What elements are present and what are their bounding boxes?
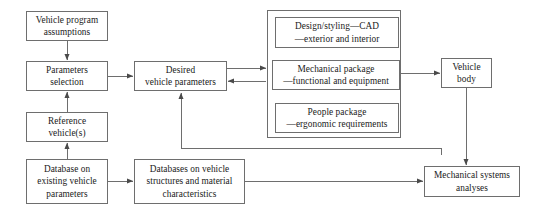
node-label: Mechanical package —functional and equip…: [283, 63, 389, 87]
node-label: People package —ergonomic requirements: [287, 106, 388, 130]
node-label: Vehicle program assumptions: [36, 14, 98, 38]
node-parameters-selection[interactable]: Parameters selection: [26, 61, 108, 91]
node-label: Mechanical systems analyses: [434, 169, 510, 193]
node-label: Design/styling—CAD —exterior and interio…: [295, 20, 380, 44]
node-design-styling-cad[interactable]: Design/styling—CAD —exterior and interio…: [275, 17, 399, 48]
node-label: Reference vehicle(s): [48, 115, 86, 139]
node-mechanical-systems-analyses[interactable]: Mechanical systems analyses: [424, 166, 520, 197]
node-database-existing-vehicle-parameters[interactable]: Database on existing vehicle parameters: [26, 159, 108, 204]
node-label: Vehicle body: [452, 61, 480, 85]
node-vehicle-body[interactable]: Vehicle body: [441, 58, 492, 88]
node-mechanical-package[interactable]: Mechanical package —functional and equip…: [272, 60, 400, 90]
node-reference-vehicles[interactable]: Reference vehicle(s): [26, 112, 108, 142]
node-label: Desired vehicle parameters: [145, 64, 216, 88]
node-databases-vehicle-structures-materials[interactable]: Databases on vehicle structures and mate…: [134, 159, 245, 204]
node-label: Databases on vehicle structures and mate…: [147, 163, 233, 200]
node-vehicle-program-assumptions[interactable]: Vehicle program assumptions: [26, 11, 108, 41]
diagram-canvas: Vehicle program assumptions Parameters s…: [0, 0, 541, 212]
node-people-package[interactable]: People package —ergonomic requirements: [275, 103, 399, 133]
node-label: Parameters selection: [46, 64, 88, 88]
node-desired-vehicle-parameters[interactable]: Desired vehicle parameters: [134, 61, 227, 91]
node-label: Database on existing vehicle parameters: [37, 163, 96, 200]
